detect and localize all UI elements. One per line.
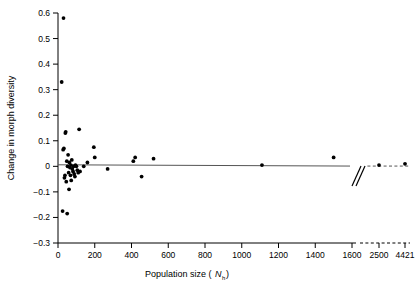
data-point [86, 161, 90, 165]
data-point [92, 145, 96, 149]
data-point [64, 180, 68, 184]
y-tick-label: 0.2 [38, 110, 50, 120]
axis-break-icon [350, 165, 366, 187]
data-point [140, 175, 144, 179]
data-point [74, 164, 78, 168]
y-tick-label: −0.1 [33, 187, 50, 197]
data-point [69, 179, 73, 183]
x-axis-title-subscript: h [222, 275, 225, 281]
data-point [78, 170, 82, 174]
y-tick-label: 0.4 [38, 59, 50, 69]
data-point [332, 156, 336, 160]
x-tick-label: 800 [198, 250, 212, 260]
data-point [61, 209, 65, 213]
data-point [73, 175, 77, 179]
y-tick-label: 0.1 [38, 136, 50, 146]
data-point [63, 173, 67, 177]
y-tick-label: 0.6 [38, 8, 50, 18]
y-axis-title: Change in morph diversity [6, 75, 16, 180]
x-axis-title-main: Population size ( [145, 269, 212, 279]
x-tick-label: 4421 [396, 250, 415, 260]
x-tick-label: 200 [88, 250, 102, 260]
x-tick-label: 1200 [269, 250, 288, 260]
y-tick-label: 0.3 [38, 85, 50, 95]
x-tick-label: 600 [161, 250, 175, 260]
data-point [70, 158, 74, 162]
data-point [77, 127, 81, 131]
data-point [131, 159, 135, 163]
data-point [377, 163, 381, 167]
x-axis-title-symbol: N [215, 269, 222, 279]
x-tick-label: 1600 [343, 250, 362, 260]
x-tick-label: 1400 [306, 250, 325, 260]
x-tick-label: 400 [124, 250, 138, 260]
x-tick-label: 1000 [232, 250, 251, 260]
data-point [133, 156, 137, 160]
chart-background [0, 0, 417, 285]
x-tick-label: 2500 [370, 250, 389, 260]
data-point [62, 16, 66, 20]
y-tick-label: 0.5 [38, 34, 50, 44]
data-point [65, 212, 69, 216]
data-point [106, 167, 110, 171]
x-tick-label: 0 [56, 250, 61, 260]
data-point [403, 162, 407, 166]
data-point [93, 156, 97, 160]
data-point [60, 80, 64, 84]
data-point [66, 153, 70, 157]
data-point [152, 157, 156, 161]
y-tick-label: 0 [45, 161, 50, 171]
scatter-plot-figure: −0.3−0.2−0.100.10.20.30.40.50.6 02004006… [0, 0, 417, 285]
x-axis-title-close: ) [226, 269, 229, 279]
chart-svg: −0.3−0.2−0.100.10.20.30.40.50.6 02004006… [0, 0, 417, 285]
data-point [69, 173, 73, 177]
data-point [67, 187, 71, 191]
y-tick-label: −0.3 [33, 238, 50, 248]
data-point [64, 130, 68, 134]
data-point [260, 163, 264, 167]
y-tick-label: −0.2 [33, 212, 50, 222]
data-point [62, 147, 66, 151]
data-point [82, 164, 86, 168]
